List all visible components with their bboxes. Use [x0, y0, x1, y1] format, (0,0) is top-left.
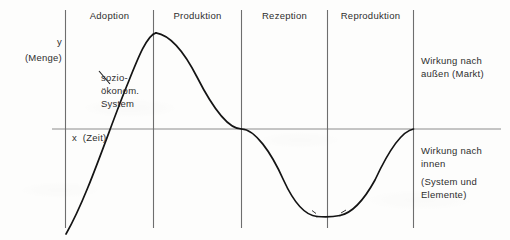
x-axis-label: x (Zeit) [72, 132, 106, 144]
phase-header-rezeption: Rezeption [242, 10, 327, 22]
diagram-canvas: Adoption Produktion Rezeption Reprodukti… [0, 0, 510, 240]
trough-tick-left [312, 211, 316, 214]
y-axis-symbol: y [34, 36, 62, 48]
curve-descend [156, 33, 242, 153]
side-note-inward-line-2: innen [421, 158, 446, 171]
curve-fall [156, 33, 242, 157]
callout-line-3: System [101, 98, 134, 109]
phase-header-reproduktion: Reproduktion [328, 10, 413, 22]
sine-phase-diagram [0, 0, 510, 240]
phase-header-produktion: Produktion [154, 10, 241, 22]
side-note-outward-line-2: außen (Markt) [421, 68, 484, 81]
side-note-outward-line-1: Wirkung nach [421, 55, 482, 68]
y-axis-unit: (Menge) [16, 52, 62, 64]
curve-trough-to-zero [340, 129, 414, 216]
side-note-inward-line-1: Wirkung nach [421, 145, 482, 158]
side-note-inward-line-4: Elemente) [421, 189, 467, 202]
phase-header-adoption: Adoption [66, 10, 153, 22]
curve-zero-to-trough [242, 129, 318, 217]
callout-line-2: ökonom. [101, 85, 139, 96]
side-note-inward-line-3: (System und [421, 176, 477, 189]
callout-line-1: sozio- [101, 72, 128, 83]
trough-tick-right [341, 210, 346, 213]
curve-descending-limb [156, 33, 242, 142]
curve-trough-bottom [317, 216, 340, 217]
